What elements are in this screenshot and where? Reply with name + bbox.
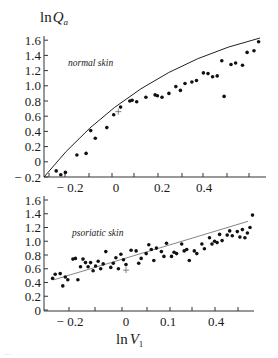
data-point [218,233,222,237]
plus-marker [115,109,121,115]
data-point [179,89,183,93]
data-point [89,129,93,133]
data-point [215,74,219,78]
data-point [195,79,199,83]
data-point [58,272,62,276]
x-tick-label: − 0.2 [57,180,84,195]
data-point [245,51,249,55]
data-point [81,257,85,261]
y-tick-label: 1.4 [25,48,42,63]
x-tick-label: 0.4 [196,180,213,195]
data-point [165,242,169,246]
data-point [124,263,128,267]
data-point [89,261,93,265]
data-point [109,266,113,270]
data-point [180,242,184,246]
data-point [104,250,108,254]
data-point [91,269,95,273]
data-point [112,262,116,266]
data-point [248,226,252,230]
x-tick-label: 0.2 [154,180,170,195]
x-axis-title: lnV1 [116,331,143,349]
y-tick-label: 1.4 [25,206,42,221]
data-point [86,265,90,269]
data-point [54,169,58,173]
data-point [79,265,83,269]
data-point [167,92,171,96]
data-point [144,95,148,99]
data-point [251,213,255,217]
data-point [64,275,68,279]
data-point [215,241,219,245]
data-point [228,229,232,233]
data-point [257,40,261,44]
x-tick-label: 0.1 [160,314,176,329]
data-point [241,228,245,232]
data-point [51,277,55,281]
data-point [195,252,199,256]
figure: 1.61.41.21.00.80.60.40.20− 0.2− 0.200.20… [0,0,278,358]
data-point [236,230,240,234]
data-point [119,253,123,257]
data-point [170,255,174,259]
data-point [210,242,214,246]
x-tick-label: − 0.2 [57,314,84,329]
data-point [76,278,80,282]
data-point [162,255,166,259]
data-point [152,259,156,263]
y-tick-label: 1.6 [25,33,42,48]
plus-marker [123,267,129,273]
data-point [53,273,57,277]
data-point [231,234,235,238]
data-point [117,267,121,271]
data-point [64,171,68,175]
data-point [220,239,224,243]
y-tick-label: 1.6 [25,193,42,208]
data-point [220,59,224,63]
data-point [185,248,189,252]
data-point [234,61,238,65]
data-point [137,262,141,266]
data-point [155,246,159,250]
y-tick-label: 1.2 [25,63,41,78]
data-point [243,236,247,240]
data-point [74,257,78,261]
data-point [105,126,109,130]
y-axis-title: lnQa [40,9,69,27]
y-tick-label: 0.2 [25,289,41,304]
data-point [174,85,178,89]
data-point [238,235,242,239]
data-point [175,252,179,256]
data-point [150,248,154,252]
data-point [160,95,164,99]
data-point [96,259,100,263]
data-point [225,233,229,237]
data-point [84,152,88,156]
data-point [160,250,164,254]
data-point [241,64,245,68]
data-point [183,82,187,86]
y-tick-label: 0.4 [25,124,42,139]
x-tick-label: 0 [123,314,130,329]
data-point [135,100,139,104]
y-tick-label: − 0.2 [14,170,41,185]
data-point [193,249,197,253]
data-point [206,72,210,76]
data-point [222,95,226,99]
data-point [122,258,126,262]
chart-psoriatic-skin: 1.61.41.21.00.80.60.40.20− 0.200.10.4pso… [25,193,255,330]
figure-caption: … [4,349,274,357]
data-point [211,75,215,79]
data-point [75,153,79,157]
data-point [61,284,65,288]
data-point [101,262,105,266]
data-point [114,256,118,260]
y-tick-label: 0 [35,154,42,169]
data-point [129,248,133,252]
x-tick-label: 0.4 [208,314,225,329]
y-tick-label: 0.6 [25,261,42,276]
y-tick-label: 0.2 [25,139,41,154]
y-tick-label: 1.0 [25,234,41,249]
data-point [139,257,143,261]
y-tick-label: 0.8 [25,248,41,263]
